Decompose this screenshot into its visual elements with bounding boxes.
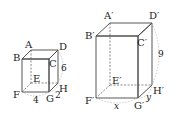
small-hidden-edge-EF — [22, 83, 31, 92]
large-front-face — [96, 36, 138, 98]
cuboid-diagram: A B C D E F G H 4 2 6 A′ B′ C′ D′ E′ F′ … — [0, 0, 178, 115]
dim-label-DH: 6 — [61, 63, 67, 73]
large-hidden-edge-EF — [96, 85, 110, 98]
dim-label-FG: 4 — [33, 95, 39, 105]
vertex-label-E: E — [33, 73, 40, 84]
vertex-label-H-prime: H′ — [153, 85, 165, 96]
dim-label-GH: 2 — [55, 90, 61, 100]
vertex-label-B: B — [13, 52, 20, 63]
vertex-label-F-prime: F′ — [85, 95, 95, 106]
small-side-face — [49, 50, 58, 92]
vertex-label-D: D — [59, 41, 67, 52]
vertex-label-C-prime: C′ — [137, 37, 148, 48]
vertex-label-D-prime: D′ — [149, 10, 160, 21]
vertex-label-E-prime: E′ — [112, 75, 122, 86]
vertex-label-A: A — [24, 39, 33, 50]
vertex-label-B-prime: B′ — [85, 30, 95, 41]
vertex-label-F: F — [13, 89, 20, 100]
dim-label-DH-prime: 9 — [158, 49, 164, 59]
dim-label-GH-prime: y — [145, 92, 152, 102]
large-side-face — [138, 23, 152, 98]
vertex-label-G-prime: G′ — [134, 100, 145, 111]
dim-label-FG-prime: x — [114, 101, 119, 111]
vertex-label-C: C — [49, 58, 57, 69]
large-cuboid: A′ B′ C′ D′ E′ F′ G′ H′ x y 9 — [85, 10, 165, 111]
small-cuboid: A B C D E F G H 4 2 6 — [13, 39, 68, 105]
vertex-label-A-prime: A′ — [103, 10, 114, 21]
vertex-label-G: G — [46, 93, 54, 104]
large-top-face — [96, 23, 152, 36]
